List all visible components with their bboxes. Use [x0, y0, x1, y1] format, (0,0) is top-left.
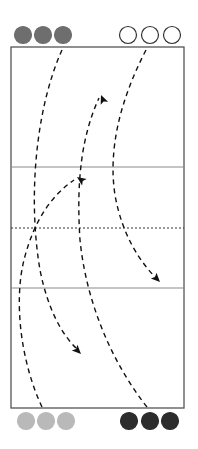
- path-top-right-to-center: [113, 50, 157, 279]
- arrowhead-down-right-icon: [151, 273, 163, 285]
- path-bottom-left-to-top: [19, 180, 74, 407]
- top-left-team-player-3: [55, 27, 72, 44]
- path-bottom-right-to-top: [79, 98, 147, 407]
- top-left-team-player-2: [35, 27, 52, 44]
- top-right-team-player-2: [142, 27, 159, 44]
- court-diagram: [0, 0, 198, 449]
- top-left-team-player-1: [15, 27, 32, 44]
- bottom-left-team-player-2: [38, 413, 55, 430]
- bottom-right-team-player-1: [121, 413, 138, 430]
- bottom-left-team-player-1: [18, 413, 35, 430]
- top-right-team-player-1: [120, 27, 137, 44]
- path-top-left-to-bottom: [34, 50, 78, 350]
- arrowhead-down-left-icon: [72, 345, 84, 357]
- bottom-left-team-player-3: [58, 413, 75, 430]
- bottom-right-team-player-3: [162, 413, 179, 430]
- volleyball-drill-diagram: [0, 0, 198, 449]
- top-right-team-player-3: [164, 27, 181, 44]
- bottom-right-team-player-2: [142, 413, 159, 430]
